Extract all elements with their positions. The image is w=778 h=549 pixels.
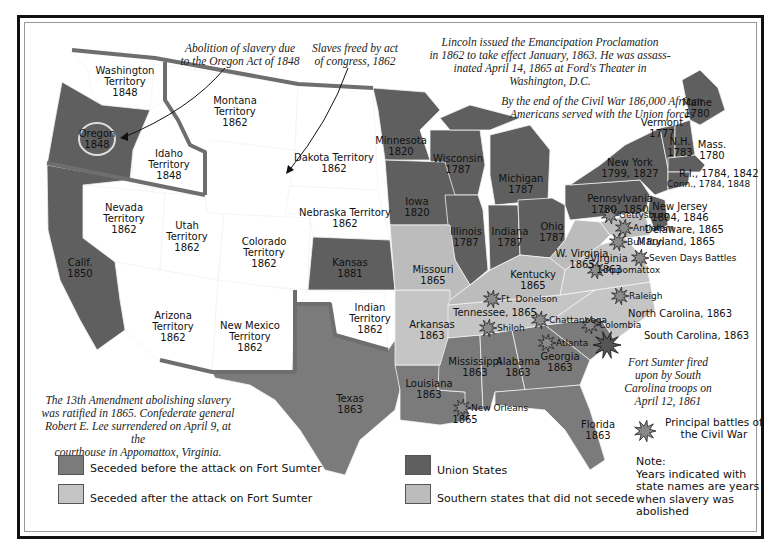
label-missouri: Missouri 1865: [412, 264, 453, 286]
note-oregon-act: Abolition of slavery due to the Oregon A…: [170, 42, 310, 68]
label-tennessee: Tennessee, 1865: [453, 307, 537, 318]
legend-note: Note: Years indicated with state names a…: [636, 456, 759, 519]
legend-swatch-did-not-secede: [405, 484, 431, 504]
battle-label: Antietam: [633, 223, 674, 233]
label-vermont: Vermont 1777: [641, 117, 683, 139]
label-florida: Florida 1863: [581, 419, 615, 441]
legend-label-union: Union States: [437, 464, 507, 477]
label-louisiana-1865: 1865: [452, 414, 477, 425]
legend-swatch-union: [405, 455, 431, 475]
label-new-york: New York 1799, 1827: [601, 157, 658, 179]
battle-label: Seven Days Battles: [649, 253, 736, 263]
label-iowa: Iowa 1820: [404, 196, 429, 218]
label-new-hampshire: N.H. 1783: [667, 136, 692, 158]
legend-swatch-seceded-after: [58, 484, 84, 504]
label-louisiana: Louisiana 1863: [405, 378, 452, 400]
legend-label-seceded-before: Seceded before the attack on Fort Sumter: [90, 462, 322, 475]
legend-swatch-seceded-before: [58, 455, 84, 475]
note-lincoln: Lincoln issued the Emancipation Proclama…: [410, 36, 690, 88]
note-thirteenth-amendment: The 13th Amendment abolishing slavery wa…: [38, 394, 238, 459]
label-minnesota: Minnesota 1820: [375, 135, 427, 157]
battle-label: Atlanta: [556, 338, 588, 348]
legend-battle-icon: [632, 419, 658, 443]
label-california: Calif. 1850: [67, 257, 92, 279]
label-nevada: Nevada Territory 1862: [103, 202, 144, 235]
label-indian-territory: Indian Territory 1862: [349, 302, 390, 335]
label-west-virginia: W. Virginia 1865: [556, 248, 609, 270]
legend-label-seceded-after: Seceded after the attack on Fort Sumter: [90, 492, 312, 505]
label-north-carolina: North Carolina, 1863: [628, 308, 732, 319]
label-alabama: Alabama 1863: [496, 356, 540, 378]
label-dakota: Dakota Territory 1862: [294, 152, 374, 174]
label-south-carolina: South Carolina, 1863: [644, 330, 749, 341]
label-massachusetts: Mass. 1780: [698, 139, 726, 161]
label-texas: Texas 1863: [336, 393, 364, 415]
battle-label: New Orleans: [471, 403, 528, 413]
label-oregon: Oregon 1848: [79, 128, 116, 150]
legend-label-battles: Principal battles of the Civil War: [665, 416, 763, 440]
label-ohio: Ohio 1787: [539, 221, 564, 243]
label-utah: Utah Territory 1862: [166, 220, 207, 253]
label-maine: Maine 1780: [682, 97, 712, 119]
label-kentucky: Kentucky 1865: [510, 269, 556, 291]
label-nebraska: Nebraska Territory 1862: [299, 207, 391, 229]
label-mississippi: Mississippi 1863: [448, 356, 501, 378]
battle-label: Bull Run: [627, 237, 664, 247]
battle-label: Raleigh: [629, 291, 663, 301]
label-rhode-island: R.I., 1784, 1842: [679, 168, 759, 179]
label-michigan: Michigan 1787: [499, 173, 544, 195]
legend-label-did-not-secede: Southern states that did not secede: [437, 492, 635, 505]
label-kansas: Kansas 1881: [332, 257, 367, 279]
label-arkansas: Arkansas 1863: [409, 319, 455, 341]
label-new-mexico: New Mexico Territory 1862: [220, 320, 280, 353]
label-indiana: Indiana 1787: [491, 226, 528, 248]
note-fort-sumter: Fort Sumter fired upon by South Carolina…: [618, 356, 718, 408]
label-georgia: Georgia 1863: [540, 351, 579, 373]
label-connecticut: Conn., 1784, 1848: [667, 179, 750, 189]
battle-label: Shiloh: [497, 323, 525, 333]
battle-label: Ft. Donelson: [501, 294, 558, 304]
label-idaho: Idaho Territory 1848: [148, 148, 189, 181]
battle-label: Appomattox: [605, 265, 660, 275]
label-montana: Montana Territory 1862: [213, 95, 257, 128]
label-wisconsin: Wisconsin 1787: [433, 153, 483, 175]
battle-label: Colombia: [599, 320, 641, 330]
label-colorado: Colorado Territory 1862: [242, 236, 287, 269]
label-illinois: Illinois 1787: [450, 226, 482, 248]
battle-label: Gettysburg: [619, 210, 669, 220]
label-washington: Washington Territory 1848: [96, 65, 155, 98]
label-arizona: Arizona Territory 1862: [152, 310, 193, 343]
note-act-of-congress: Slaves freed by act of congress, 1862: [300, 42, 410, 68]
